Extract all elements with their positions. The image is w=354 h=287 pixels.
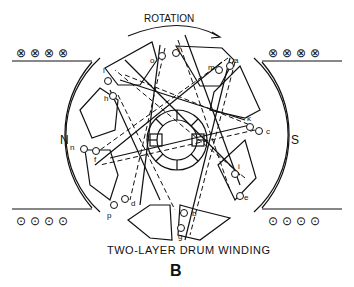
north-pole-label: N: [60, 133, 69, 147]
field-conductors-bottom-left: ⊙⊙⊙⊙: [16, 214, 72, 228]
coil-label-n: n: [70, 143, 74, 152]
coil-label-h: h: [104, 94, 108, 103]
coil-label-b: b: [192, 209, 197, 218]
coil-label-d: d: [131, 199, 135, 208]
coil-label-p: p: [107, 211, 112, 220]
coil-label-g: g: [178, 232, 182, 241]
coil-label-j: j: [177, 43, 180, 52]
south-pole-label: S: [291, 133, 299, 147]
coil-label-i: i: [238, 162, 240, 171]
stator-left-arc: [65, 62, 92, 208]
coil-label-m: m: [208, 63, 215, 72]
rotation-arrow: [128, 26, 218, 37]
coil-label-c: c: [266, 127, 270, 136]
rotor-tooth: [128, 205, 172, 240]
drum-winding-diagram: ROTATION N S ⊗⊗⊗⊗ ⊗⊗⊗⊗ ⊙⊙⊙⊙ ⊙⊙⊙⊙ l h o j…: [0, 0, 354, 287]
field-conductors-top-right: ⊗⊗⊗⊗: [268, 46, 324, 60]
coil-label-k: k: [247, 114, 252, 123]
figure-title: TWO-LAYER DRUM WINDING: [107, 244, 271, 256]
coil-label-l: l: [103, 66, 105, 75]
coil-label-f: f: [94, 155, 97, 164]
field-conductors-bottom-right: ⊙⊙⊙⊙: [268, 214, 324, 228]
coil-label-o: o: [150, 56, 155, 65]
figure-letter: B: [170, 262, 182, 279]
rotor-tooth: [218, 140, 256, 200]
rotation-label: ROTATION: [144, 13, 194, 24]
coil-label-e: e: [244, 193, 249, 202]
coil-label-a: a: [234, 56, 239, 65]
field-conductors-top-left: ⊗⊗⊗⊗: [16, 46, 72, 60]
